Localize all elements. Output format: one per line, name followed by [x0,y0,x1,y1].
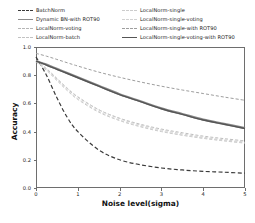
x-tick-mark [203,188,204,191]
series-line [36,61,245,128]
x-tick-label: 3 [151,191,171,197]
x-tick-mark [120,188,121,191]
legend-item-label: Dynamic BN-with ROT90 [36,15,100,24]
legend-item[interactable]: LocalNorm-single-voting-with ROT90 [122,33,250,42]
legend-swatch-icon [122,10,137,11]
plot-lines [36,47,245,188]
x-tick-mark [36,188,37,191]
chart-legend: BatchNormLocalNorm-singleDynamic BN-with… [18,6,250,42]
legend-item-label: LocalNorm-single-voting [140,15,203,24]
series-line [36,53,245,100]
x-tick-label: 5 [235,191,255,197]
legend-item[interactable]: LocalNorm-single [122,6,250,15]
series-line [36,61,245,128]
y-tick-label: 1.0 [0,44,31,50]
x-tick-label: 1 [68,191,88,197]
x-axis-label: Noise level(sigma) [36,199,245,208]
chart-figure: BatchNormLocalNorm-singleDynamic BN-with… [0,0,255,223]
legend-item-label: BatchNorm [36,6,65,15]
x-tick-mark [78,188,79,191]
series-line [36,57,245,173]
legend-swatch-icon [122,37,137,38]
legend-item[interactable]: LocalNorm-single-with ROT90 [122,24,250,33]
x-tick-label: 0 [26,191,46,197]
legend-item-label: LocalNorm-single-voting-with ROT90 [140,33,235,42]
legend-item-label: LocalNorm-batch [36,33,80,42]
x-tick-mark [161,188,162,191]
legend-item-label: LocalNorm-voting [36,24,82,33]
legend-item-label: LocalNorm-single-with ROT90 [140,24,217,33]
x-tick-label: 4 [193,191,213,197]
legend-swatch-icon [122,28,137,29]
x-tick-mark [245,188,246,191]
y-axis-label: Accuracy [10,72,19,172]
legend-item-label: LocalNorm-single [140,6,185,15]
legend-item[interactable]: LocalNorm-single-voting [122,15,250,24]
x-tick-label: 2 [110,191,130,197]
legend-swatch-icon [122,19,137,20]
